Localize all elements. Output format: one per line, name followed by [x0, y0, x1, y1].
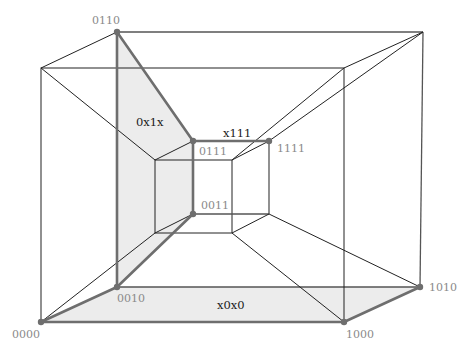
- edge: [232, 214, 269, 233]
- label-face-x111: x111: [223, 126, 251, 140]
- vertex-0111: [190, 138, 196, 144]
- label-1000: 1000: [346, 328, 374, 341]
- vertex-1111: [266, 138, 272, 144]
- label-0000: 0000: [12, 328, 40, 341]
- vertex-0011: [190, 211, 196, 217]
- label-face-x0x0: x0x0: [217, 298, 245, 312]
- label-0011: 0011: [201, 199, 229, 212]
- label-1111: 1111: [277, 142, 305, 155]
- label-0010: 0010: [117, 292, 145, 305]
- tesseract-diagram: 0110 0111 1111 0011 0010 0000 1000 1010 …: [0, 0, 467, 357]
- vertex-1000: [341, 319, 347, 325]
- vertex-0010: [114, 284, 120, 290]
- edge: [269, 32, 423, 141]
- edge: [232, 141, 269, 160]
- vertex-1010: [417, 284, 423, 290]
- edge: [420, 32, 423, 287]
- edge: [41, 32, 117, 68]
- label-1010: 1010: [429, 281, 457, 294]
- label-0110: 0110: [92, 14, 120, 27]
- vertex-0000: [38, 319, 44, 325]
- edge: [344, 32, 423, 68]
- label-face-0x1x: 0x1x: [136, 115, 164, 129]
- label-0111: 0111: [199, 145, 227, 158]
- vertex-0110: [114, 29, 120, 35]
